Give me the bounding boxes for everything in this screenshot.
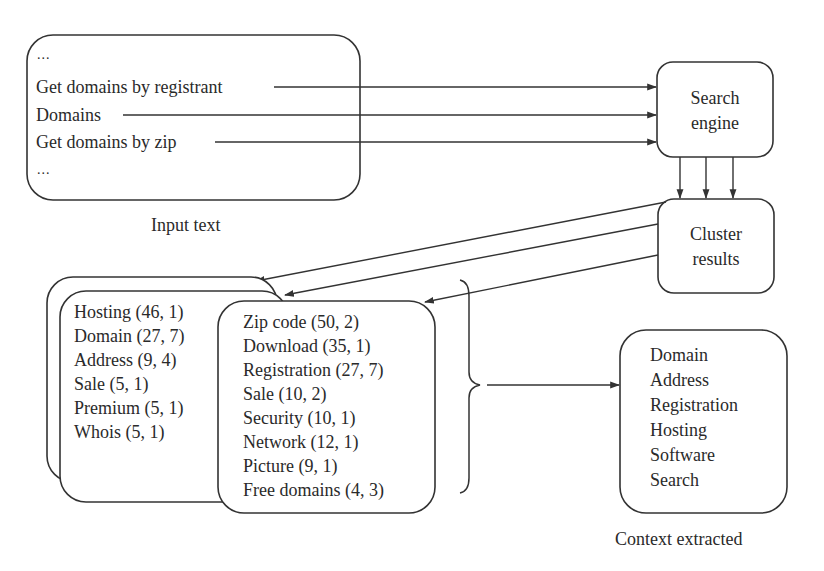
arrow-cluster-to-card-back: [256, 202, 666, 281]
cluster-card-1-item: Whois (5, 1): [74, 420, 184, 444]
context-item: Search: [650, 468, 738, 493]
context-extracted-list: Domain Address Registration Hosting Soft…: [650, 343, 738, 493]
cluster-card-1-item: Sale (5, 1): [74, 372, 184, 396]
diagram-canvas: ... Get domains by registrant Domains Ge…: [0, 0, 824, 571]
cluster-results-label-line2: results: [658, 247, 774, 272]
input-line-zip: Get domains by zip: [36, 130, 176, 155]
context-item: Hosting: [650, 418, 738, 443]
cluster-card-1-item: Domain (27, 7): [74, 324, 184, 348]
cluster-card-2-list: Zip code (50, 2) Download (35, 1) Regist…: [243, 310, 384, 502]
cluster-card-2-item: Picture (9, 1): [243, 454, 384, 478]
cluster-results-label-line1: Cluster: [658, 222, 774, 247]
cluster-card-2-item: Free domains (4, 3): [243, 478, 384, 502]
context-item: Domain: [650, 343, 738, 368]
input-line-domains: Domains: [36, 103, 101, 128]
search-engine-label-line1: Search: [657, 86, 773, 111]
cluster-card-2-item: Zip code (50, 2): [243, 310, 384, 334]
cluster-card-2-item: Sale (10, 2): [243, 382, 384, 406]
cluster-card-1-list: Hosting (46, 1) Domain (27, 7) Address (…: [74, 300, 184, 444]
grouping-brace: [460, 280, 480, 493]
cluster-card-2-item: Network (12, 1): [243, 430, 384, 454]
cluster-card-2-item: Download (35, 1): [243, 334, 384, 358]
input-ellipsis-top: ...: [37, 43, 51, 68]
input-text-caption: Input text: [151, 213, 221, 238]
input-line-registrant: Get domains by registrant: [36, 75, 222, 100]
cluster-card-1-item: Premium (5, 1): [74, 396, 184, 420]
context-item: Address: [650, 368, 738, 393]
cluster-card-2-item: Security (10, 1): [243, 406, 384, 430]
arrow-cluster-to-card-middle: [285, 224, 658, 295]
input-ellipsis-bottom: ...: [37, 158, 51, 183]
cluster-results-label: Cluster results: [658, 222, 774, 271]
search-engine-label: Search engine: [657, 86, 773, 135]
cluster-card-1-item: Hosting (46, 1): [74, 300, 184, 324]
context-item: Software: [650, 443, 738, 468]
cluster-card-2-item: Registration (27, 7): [243, 358, 384, 382]
search-engine-label-line2: engine: [657, 111, 773, 136]
context-extracted-caption: Context extracted: [615, 527, 742, 552]
cluster-card-1-item: Address (9, 4): [74, 348, 184, 372]
context-item: Registration: [650, 393, 738, 418]
